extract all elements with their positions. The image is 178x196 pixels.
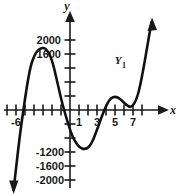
curve-right-arrow-icon bbox=[148, 18, 158, 32]
x-axis-arrow-icon bbox=[158, 105, 169, 115]
x-tick-label-7: 7 bbox=[130, 116, 136, 128]
curve-left-arrow-icon bbox=[9, 181, 18, 195]
y-axis-label: y bbox=[62, 0, 70, 13]
y-tick-label-2000: 2000 bbox=[37, 34, 61, 46]
y-tick-label-neg2000: -2000 bbox=[36, 174, 64, 186]
series-annotation-y1: Y 1 bbox=[115, 54, 126, 70]
x-tick-label-1: 1 bbox=[76, 116, 82, 128]
y-tick-label-neg1200: -1200 bbox=[36, 146, 64, 158]
series-annotation-subscript: 1 bbox=[122, 61, 126, 70]
chart-figure: -6 1 3 5 7 2000 1600 -1200 -1600 -2000 y… bbox=[0, 0, 178, 196]
x-tick-label-neg6: -6 bbox=[11, 116, 21, 128]
x-tick-label-5: 5 bbox=[112, 116, 118, 128]
x-axis-label: x bbox=[169, 103, 176, 117]
y-tick-label-neg1600: -1600 bbox=[36, 160, 64, 172]
chart-plot-area: -6 1 3 5 7 2000 1600 -1200 -1600 -2000 y… bbox=[0, 0, 178, 196]
